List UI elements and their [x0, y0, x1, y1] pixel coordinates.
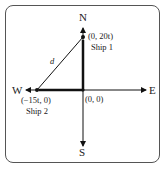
ship2-name: Ship 2	[26, 107, 48, 116]
ship2-point	[35, 88, 39, 92]
north-label: N	[79, 12, 87, 23]
ship2-coord: (−15t, 0)	[21, 96, 51, 105]
origin-point	[81, 88, 84, 91]
east-label: E	[149, 85, 156, 96]
distance-line	[37, 37, 83, 90]
south-label: S	[79, 147, 85, 158]
ship1-point	[81, 35, 85, 39]
ship1-coord: (0, 20t)	[88, 32, 113, 41]
compass-diagram	[0, 0, 166, 169]
origin-label: (0, 0)	[85, 95, 103, 104]
ship1-name: Ship 1	[91, 43, 113, 52]
distance-label: d	[50, 57, 54, 66]
